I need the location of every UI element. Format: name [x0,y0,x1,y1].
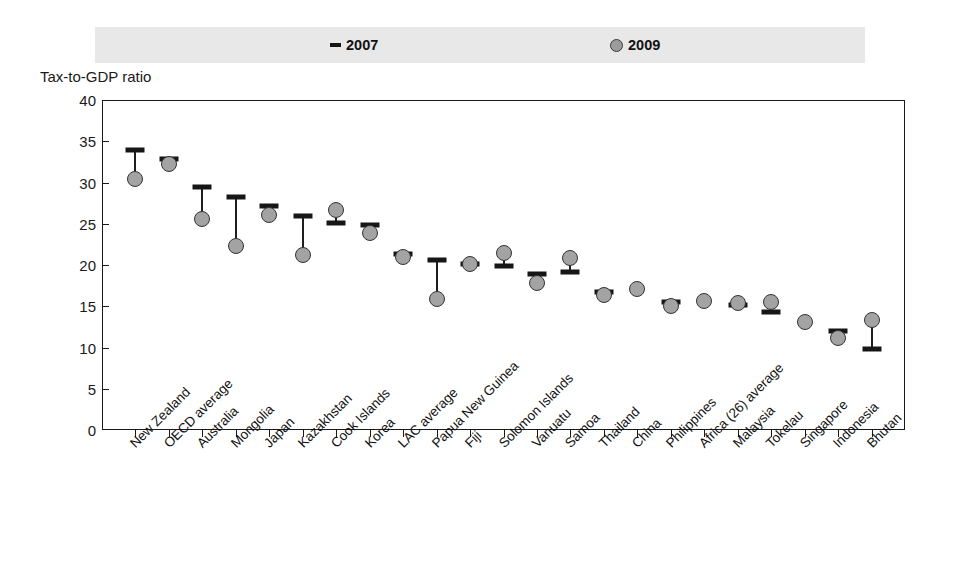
data-point-2009 [462,256,478,272]
data-point-2007 [862,347,881,352]
data-point-2009 [730,295,746,311]
legend-label-2007: 2007 [346,37,378,53]
data-point-2007 [293,213,312,218]
chart-legend: 2007 2009 [95,27,865,63]
legend-entry-2007: 2007 [330,34,378,56]
data-point-2007 [327,220,346,225]
data-point-2009 [161,156,177,172]
data-point-2009 [127,171,143,187]
x-axis-tick-label: Fiji [462,428,485,451]
y-axis-tick-label: 0 [62,422,96,439]
data-point-2009 [696,293,712,309]
data-point-2009 [429,291,445,307]
circle-marker-icon [610,39,623,52]
data-point-2009 [362,225,378,241]
y-axis-tick-mark [102,224,109,225]
y-axis-tick-labels: 0510152025303540 [58,0,96,567]
y-axis-tick-label: 10 [62,339,96,356]
data-point-2007 [126,147,145,152]
data-point-2009 [529,275,545,291]
data-point-2009 [663,298,679,314]
data-point-2007 [226,194,245,199]
data-point-2007 [762,310,781,315]
data-point-2009 [261,207,277,223]
data-point-2007 [193,184,212,189]
dash-marker-icon [330,43,341,47]
data-point-2009 [395,249,411,265]
data-point-2009 [496,245,512,261]
y-axis-tick-label: 35 [62,133,96,150]
data-point-2009 [295,247,311,263]
data-point-2009 [629,281,645,297]
data-point-2009 [328,202,344,218]
y-axis-tick-mark [102,265,109,266]
data-point-2009 [596,287,612,303]
legend-label-2009: 2009 [628,37,660,53]
data-point-2007 [494,263,513,268]
data-point-2009 [562,250,578,266]
legend-entry-2009: 2009 [610,34,660,56]
data-point-2009 [830,330,846,346]
data-point-2009 [228,238,244,254]
y-axis-tick-label: 40 [62,92,96,109]
data-point-2009 [194,211,210,227]
y-axis-tick-mark [102,389,109,390]
y-axis-tick-label: 25 [62,215,96,232]
y-axis-tick-mark [102,141,109,142]
y-axis-tick-label: 30 [62,174,96,191]
y-axis-tick-mark [102,306,109,307]
data-point-2009 [763,294,779,310]
data-point-2009 [864,312,880,328]
y-axis-tick-mark [102,348,109,349]
data-point-2009 [797,314,813,330]
data-point-2007 [561,270,580,275]
y-axis-tick-label: 5 [62,380,96,397]
data-point-2007 [427,258,446,263]
y-axis-tick-label: 15 [62,298,96,315]
y-axis-tick-mark [102,183,109,184]
y-axis-tick-label: 20 [62,257,96,274]
chart-figure: 2007 2009 Tax-to-GDP ratio 0510152025303… [0,0,954,567]
